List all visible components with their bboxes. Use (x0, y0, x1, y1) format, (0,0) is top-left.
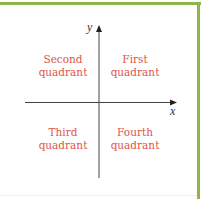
second-quadrant-label: Second quadrant (28, 53, 98, 79)
fourth-quadrant-label: Fourth quadrant (100, 126, 170, 152)
third-quadrant-label: Third quadrant (28, 126, 98, 152)
y-axis-label: y (87, 20, 92, 35)
first-quadrant-label: First quadrant (100, 53, 170, 79)
y-axis-arrow-icon (96, 25, 102, 32)
diagram-frame: y x Second quadrant First quadrant Third… (0, 0, 205, 199)
axes (0, 0, 205, 199)
x-axis-label: x (170, 104, 175, 119)
